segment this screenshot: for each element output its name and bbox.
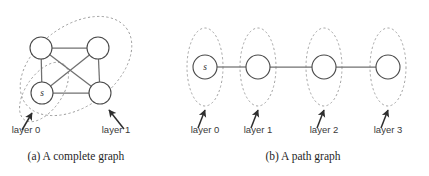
panel-b-caption: (b) A path graph: [265, 150, 340, 163]
panel-b-layer-arrows: [198, 110, 388, 128]
layer-label-layer0: layer 0: [191, 124, 220, 135]
layer-label-layer3: layer 3: [374, 124, 403, 135]
graph-node: [312, 55, 336, 79]
graph-edge: [98, 59, 99, 82]
panel-a-layer-ellipses: [2, 0, 151, 136]
graph-node: [87, 37, 109, 59]
graph-node: [376, 55, 400, 79]
node-label-source: s: [203, 62, 207, 72]
panel-a-layer-labels: layer 0layer 1: [12, 124, 131, 135]
graph-node: [246, 55, 270, 79]
panel-a-complete-graph: s layer 0layer 1 (a) A complete graph: [2, 0, 151, 163]
figure-container: s layer 0layer 1 (a) A complete graph s …: [0, 0, 429, 176]
layer-label-layer1: layer 1: [244, 124, 273, 135]
graph-node: [89, 82, 111, 104]
layer-boundary-ellipse: [2, 0, 151, 136]
graph-node: [30, 37, 52, 59]
layer-label-layer1: layer 1: [102, 124, 131, 135]
node-label-source: s: [40, 88, 44, 98]
layer-label-layer2: layer 2: [310, 124, 339, 135]
layer-label-layer0: layer 0: [12, 124, 41, 135]
figure-canvas: s layer 0layer 1 (a) A complete graph s …: [0, 0, 429, 176]
panel-a-caption: (a) A complete graph: [28, 150, 125, 163]
panel-b-layer-labels: layer 0layer 1layer 2layer 3: [191, 124, 403, 135]
panel-b-path-graph: s layer 0layer 1layer 2layer 3 (b) A pat…: [187, 28, 406, 163]
graph-edge: [41, 59, 42, 82]
